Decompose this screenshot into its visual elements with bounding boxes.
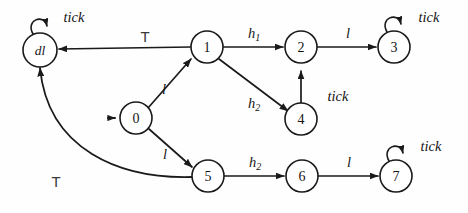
self-loop-dl-path [31, 19, 47, 34]
state-diagram-figure: T T h1 l l h2 [0, 0, 468, 213]
edge-5-to-6: h2 [224, 154, 284, 176]
node-2-label: 2 [298, 40, 305, 55]
self-loop-dl-label: tick [64, 9, 85, 25]
edge-5-to-dl: T [40, 68, 192, 190]
node-3[interactable]: 3 [378, 31, 410, 63]
self-loop-n3-label: tick [419, 9, 440, 25]
node-1-label: 1 [204, 40, 211, 55]
node-5-label: 5 [205, 169, 212, 184]
self-loop-dl: tick [31, 9, 85, 34]
edge-1-to-2-label: h1 [248, 25, 260, 43]
node-3-label: 3 [391, 40, 398, 55]
edge-2-to-3: l [317, 25, 376, 47]
edge-4-to-2: tick [301, 71, 349, 104]
edge-1-to-2: h1 [223, 25, 283, 47]
edge-1-to-2-label-main: h [248, 25, 255, 41]
edge-0-to-5-line [149, 129, 192, 167]
edge-6-to-7: l [318, 154, 378, 176]
node-6-label: 6 [299, 169, 306, 184]
edge-5-to-6-label-main: h [249, 154, 256, 170]
edge-0-to-5-label: l [163, 146, 167, 162]
node-0[interactable]: 0 [120, 102, 152, 134]
node-dl[interactable]: dl [23, 33, 57, 67]
node-dl-label: dl [35, 43, 46, 58]
node-2[interactable]: 2 [285, 31, 317, 63]
self-loop-n3-path [385, 17, 401, 32]
self-loop-n7: tick [387, 138, 442, 161]
edge-1-to-dl-line [59, 47, 191, 49]
edge-0-to-1-label: l [162, 81, 166, 97]
edge-1-to-dl: T [59, 28, 191, 50]
node-4[interactable]: 4 [285, 103, 317, 135]
state-diagram-canvas: T T h1 l l h2 [0, 0, 468, 213]
edge-1-to-4-label-sub: 2 [255, 102, 260, 113]
node-1[interactable]: 1 [191, 31, 223, 63]
node-7[interactable]: 7 [380, 160, 412, 192]
edge-0-to-5: l [149, 129, 192, 167]
edge-1-to-4-label-main: h [248, 95, 255, 111]
node-6[interactable]: 6 [286, 160, 318, 192]
self-loop-n3: tick [385, 9, 440, 32]
node-4-label: 4 [298, 112, 305, 127]
edge-0-to-1: l [148, 59, 191, 108]
edge-2-to-3-label: l [346, 25, 350, 41]
edge-6-to-7-label: l [347, 154, 351, 170]
edge-5-to-dl-label: T [51, 173, 60, 190]
edge-1-to-4-label: h2 [248, 95, 260, 113]
node-7-label: 7 [393, 169, 400, 184]
edge-0-to-1-line [148, 59, 191, 108]
self-loop-n7-label: tick [421, 138, 442, 154]
edge-1-to-2-label-sub: 1 [255, 32, 260, 43]
node-0-label: 0 [133, 111, 140, 126]
edge-4-to-2-label: tick [328, 88, 349, 104]
edge-1-to-4: h2 [219, 59, 288, 113]
node-5[interactable]: 5 [192, 160, 224, 192]
self-loop-n7-path [387, 146, 403, 161]
edge-5-to-6-label: h2 [249, 154, 261, 172]
edge-1-to-dl-label: T [140, 28, 149, 45]
edge-5-to-6-label-sub: 2 [256, 161, 261, 172]
